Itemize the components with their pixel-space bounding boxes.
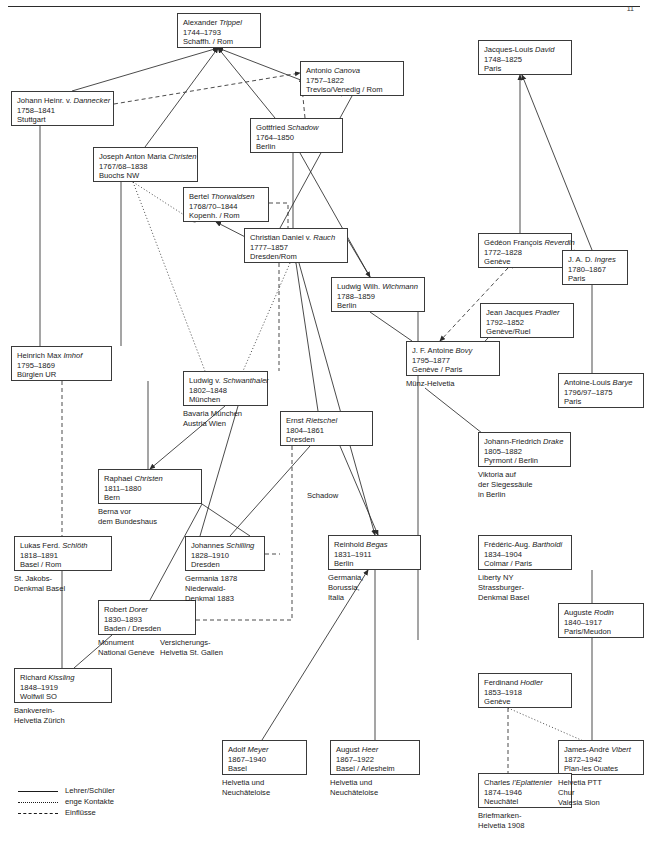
legend-line-dotted-icon — [18, 802, 58, 803]
person-node-ingres[interactable]: J. A. D. Ingres1780–1867Paris — [562, 250, 628, 285]
person-years: 1767/68–1838 — [99, 162, 193, 172]
person-name: Heinrich Max Imhof — [17, 351, 107, 361]
person-node-reverdin[interactable]: Gédéon François Reverdin1772–1828Genève — [478, 233, 572, 268]
person-years: 1795–1869 — [17, 361, 107, 371]
person-place: Pyrmont / Berlin — [484, 456, 566, 466]
edge-wichmann-bovy — [370, 312, 412, 341]
person-node-rauch[interactable]: Christian Daniel v. Rauch1777–1857Dresde… — [244, 228, 348, 263]
person-node-bartholdi[interactable]: Frédéric-Aug. Bartholdi1834–1904Colmar /… — [478, 535, 572, 570]
person-node-jam-christen[interactable]: Joseph Anton Maria Christen1767/68–1838B… — [93, 147, 198, 182]
person-name: Christian Daniel v. Rauch — [250, 233, 343, 243]
legend-label: Einflüsse — [65, 807, 96, 819]
person-years: 1834–1904 — [484, 550, 567, 560]
person-place: Baden / Dresden — [104, 624, 191, 634]
person-years: 1758–1841 — [17, 106, 109, 116]
person-name: Jacques-Louis David — [484, 45, 567, 55]
person-name: Ernst Rietschel — [286, 416, 368, 426]
edge-raphael-christen-schilling — [202, 504, 250, 536]
person-place: Paris — [568, 274, 623, 284]
caption-vibert-works: Helvetia PTT Chur Valesia Sion — [558, 778, 602, 809]
person-node-vibert[interactable]: James-André Vibert1872–1942Plan-les Ouat… — [558, 740, 644, 775]
caption-schilling-works: Germania 1878 Niederwald- Denkmal 1883 — [185, 574, 237, 605]
person-node-schadow[interactable]: Gottfried Schadow1764–1850Berlin — [250, 118, 343, 153]
person-place: Buochs NW — [99, 171, 193, 181]
person-name: Gédéon François Reverdin — [484, 238, 567, 248]
person-years: 1867–1922 — [336, 755, 415, 765]
header-rule: 11 — [8, 6, 640, 7]
caption-dorer-works: Monument National Genève — [98, 638, 155, 658]
caption-kissling-works: Bankverein- Helvetia Zürich — [14, 706, 65, 726]
legend-line-dashed-icon — [18, 813, 58, 814]
person-node-schloth[interactable]: Lukas Ferd. Schlöth1818–1891Basel / Rom — [14, 536, 112, 571]
person-place: Genève / Paris — [412, 365, 495, 375]
person-node-david[interactable]: Jacques-Louis David1748–1825Paris — [478, 40, 572, 75]
person-node-barye[interactable]: Antoine-Louis Barye1796/97–1875Paris — [558, 373, 644, 408]
person-years: 1848–1919 — [20, 683, 107, 693]
edge-thorwaldsen-rauch — [269, 203, 288, 228]
person-node-meyer[interactable]: Adolf Meyer1867–1940Basel — [222, 740, 307, 775]
person-place: Berlin — [256, 142, 338, 152]
person-place: Dresden — [191, 560, 260, 570]
person-place: München — [189, 395, 263, 405]
person-node-rietschel[interactable]: Ernst Rietschel1804–1861Dresden — [280, 411, 373, 446]
caption-bartholdi-works: Liberty NY Strassburger- Denkmal Basel — [478, 573, 529, 604]
person-name: J. F. Antoine Bovy — [412, 346, 495, 356]
person-name: Reinhold Begas — [334, 540, 416, 550]
person-years: 1830–1893 — [104, 615, 191, 625]
person-years: 1777–1857 — [250, 243, 343, 253]
person-years: 1811–1880 — [104, 484, 197, 494]
person-years: 1780–1867 — [568, 265, 623, 275]
person-node-pradier[interactable]: Jean Jacques Pradier1792–1852Genève/Ruel — [480, 303, 574, 338]
person-place: Berlin — [337, 301, 420, 311]
person-node-begas[interactable]: Reinhold Begas1831–1911Berlin — [328, 535, 421, 570]
person-node-schwanthaler[interactable]: Ludwig v. Schwanthaler1802–1848München — [183, 371, 268, 406]
person-years: 1748–1825 — [484, 55, 567, 65]
person-years: 1828–1910 — [191, 551, 260, 561]
person-node-heer[interactable]: August Heer1867–1922Basel / Arlesheim — [330, 740, 420, 775]
person-node-dannecker[interactable]: Johann Heinr. v. Dannecker1758–1841Stutt… — [11, 91, 114, 126]
person-place: Basel / Rom — [20, 560, 107, 570]
edge-rauch-imhof — [243, 263, 290, 371]
legend-line-solid-icon — [18, 791, 58, 792]
diagram-page: 11 Alexander Trippel1744–1793Schaffh. / … — [0, 0, 648, 844]
person-place: Genève/Ruel — [486, 327, 569, 337]
person-name: Johannes Schilling — [191, 541, 260, 551]
caption-leplattenier-works: Briefmarken- Helvetia 1908 — [478, 811, 524, 831]
person-years: 1805–1882 — [484, 447, 566, 457]
person-years: 1872–1942 — [564, 755, 639, 765]
person-node-raphael-christen[interactable]: Raphael Christen1811–1880Bern — [98, 469, 202, 504]
person-name: Lukas Ferd. Schlöth — [20, 541, 107, 551]
person-years: 1818–1891 — [20, 551, 107, 561]
person-place: Bürglen UR — [17, 370, 107, 380]
person-place: Paris/Meudon — [564, 627, 639, 637]
person-place: Wolfwil SO — [20, 692, 107, 702]
person-node-kissling[interactable]: Richard Kissling1848–1919Wolfwil SO — [14, 668, 112, 703]
person-place: Genève — [484, 257, 567, 267]
person-node-trippel[interactable]: Alexander Trippel1744–1793Schaffh. / Rom — [177, 13, 261, 48]
edge-trippel-schadow — [218, 48, 275, 118]
person-node-drake[interactable]: Johann-Friedrich Drake1805–1882Pyrmont /… — [478, 432, 571, 467]
person-name: Joseph Anton Maria Christen — [99, 152, 193, 162]
person-years: 1867–1940 — [228, 755, 302, 765]
legend-label: Lehrer/Schüler — [65, 785, 115, 797]
caption-raphael-works: Berna vor dem Bundeshaus — [98, 507, 157, 527]
person-node-rodin[interactable]: Auguste Rodin1840–1917Paris/Meudon — [558, 603, 644, 638]
edge-dannecker-canova — [114, 73, 300, 104]
person-node-imhof[interactable]: Heinrich Max Imhof1795–1869Bürglen UR — [11, 346, 112, 381]
person-place: Basel — [228, 764, 302, 774]
person-node-wichmann[interactable]: Ludwig Wilh. Wichmann1788–1859Berlin — [331, 277, 425, 312]
person-node-thorwaldsen[interactable]: Bertel Thorwaldsen1768/70–1844Kopenh. / … — [183, 187, 269, 222]
person-node-schilling[interactable]: Johannes Schilling1828–1910Dresden — [185, 536, 265, 571]
person-node-hodler[interactable]: Ferdinand Hodler1853–1918Genève — [478, 673, 572, 708]
person-place: Kopenh. / Rom — [189, 211, 264, 221]
person-place: Schaffh. / Rom — [183, 37, 256, 47]
person-name: Johann Heinr. v. Dannecker — [17, 96, 109, 106]
person-node-bovy[interactable]: J. F. Antoine Bovy1795–1877Genève / Pari… — [406, 341, 500, 376]
person-name: Frédéric-Aug. Bartholdi — [484, 540, 567, 550]
person-years: 1795–1877 — [412, 356, 495, 366]
edge-rauch-rietschel — [296, 263, 318, 411]
person-node-canova[interactable]: Antonio Canova1757–1822Treviso/Venedig /… — [300, 61, 404, 96]
person-node-dorer[interactable]: Robert Dorer1830–1893Baden / Dresden — [98, 600, 196, 635]
person-name: J. A. D. Ingres — [568, 255, 623, 265]
person-name: Johann-Friedrich Drake — [484, 437, 566, 447]
